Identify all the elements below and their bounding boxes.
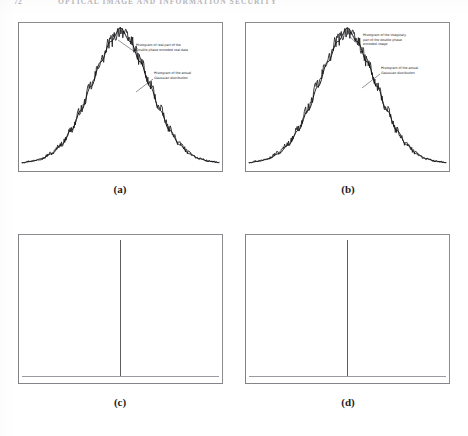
- header-title: OPTICAL IMAGE AND INFORMATION SECURITY: [58, 0, 277, 6]
- running-header: 72 OPTICAL IMAGE AND INFORMATION SECURIT…: [0, 0, 468, 8]
- panel-c-plot: [18, 234, 223, 384]
- panel-a-annotation-gaussian: Histogram of the actual Gaussian distrib…: [154, 71, 224, 80]
- caption-d: (d): [318, 396, 378, 408]
- page-number: 72: [14, 0, 22, 6]
- figure-panel-b: Histogram of the imaginary part of the d…: [245, 22, 450, 172]
- caption-a: (a): [90, 183, 150, 195]
- figure-panel-c: [18, 234, 223, 384]
- figure-panel-d: [245, 234, 450, 384]
- figure-panel-a: Histogram of real part of the Double pha…: [18, 22, 223, 172]
- panel-b-annotation-gaussian: Histogram of the actual Gaussian distrib…: [381, 66, 451, 75]
- panel-d-plot: [245, 234, 450, 384]
- caption-c: (c): [90, 396, 150, 408]
- panel-b-annotation-encoded: Histogram of the imaginary part of the d…: [363, 33, 435, 47]
- caption-b: (b): [318, 183, 378, 195]
- panel-a-annotation-encoded: Histogram of real part of the Double pha…: [136, 43, 216, 52]
